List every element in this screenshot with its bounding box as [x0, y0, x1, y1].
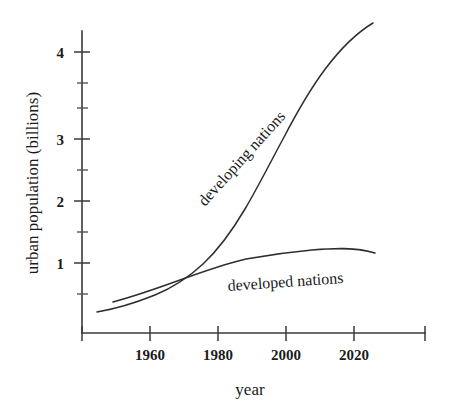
y-tick-label-3: 3 [57, 132, 65, 148]
x-axis-title: year [235, 380, 265, 399]
y-tick-label-4: 4 [57, 45, 65, 61]
x-tick-label-2000: 2000 [271, 347, 301, 363]
y-tick-label-2: 2 [57, 194, 65, 210]
x-tick-label-1980: 1980 [203, 347, 233, 363]
x-tick-label-2020: 2020 [339, 347, 369, 363]
y-tick-label-1: 1 [57, 256, 65, 272]
urban-population-line-chart: 1 2 3 4 1960 1980 2000 2020 year urban p… [0, 0, 460, 414]
x-tick-label-1960: 1960 [135, 347, 165, 363]
chart-page: 1 2 3 4 1960 1980 2000 2020 year urban p… [0, 0, 460, 414]
y-axis-title: urban population (billions) [23, 92, 42, 274]
